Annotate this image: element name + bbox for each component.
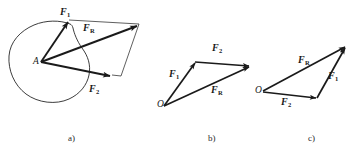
vector-label-fr-a: FR <box>83 23 94 33</box>
force-symbol: F <box>83 22 90 33</box>
vector-label-f2-c: F2 <box>281 97 291 107</box>
point-label-o-c: O <box>255 86 262 96</box>
force-symbol: F <box>212 42 219 53</box>
force-subscript: R <box>218 89 223 96</box>
force-subscript: 1 <box>176 73 179 80</box>
vector-label-f1-c: F1 <box>328 71 338 81</box>
panel-a-graphic <box>9 20 139 102</box>
caption-panel-b: b) <box>208 134 216 143</box>
force-subscript: 2 <box>288 101 291 108</box>
force-symbol: F <box>211 84 218 95</box>
vector-label-f2-a: F2 <box>89 84 99 94</box>
vector-label-fr-c: FR <box>298 55 309 65</box>
caption-panel-a: a) <box>68 134 75 143</box>
force-subscript: R <box>305 59 310 66</box>
point-label-a: A <box>33 57 39 67</box>
point-label-o-b: O <box>157 100 164 110</box>
force-subscript: 1 <box>67 11 70 18</box>
force-symbol: F <box>328 70 335 81</box>
body-outline-a <box>9 21 90 102</box>
parallelogram-side-top-a <box>69 20 139 24</box>
force-subscript: R <box>90 27 95 34</box>
force-symbol: F <box>60 6 67 17</box>
vector-label-fr-b: FR <box>211 85 222 95</box>
caption-panel-c: c) <box>308 134 315 143</box>
force-subscript: 2 <box>96 88 99 95</box>
force-symbol: F <box>169 68 176 79</box>
parallelogram-side-bottom-a <box>112 75 121 76</box>
force-vector-figure: A F1 FR F2 a) O F1 F2 FR b) O FR F1 F2 c… <box>0 0 356 152</box>
force-symbol: F <box>281 96 288 107</box>
vector-f2-a <box>41 62 110 76</box>
vector-label-f2-b: F2 <box>212 43 222 53</box>
force-subscript: 1 <box>335 75 338 82</box>
force-subscript: 2 <box>219 47 222 54</box>
vector-f2-b <box>195 62 249 66</box>
force-symbol: F <box>298 54 305 65</box>
vector-label-f1-a: F1 <box>60 7 70 17</box>
force-symbol: F <box>89 83 96 94</box>
vector-label-f1-b: F1 <box>169 69 179 79</box>
